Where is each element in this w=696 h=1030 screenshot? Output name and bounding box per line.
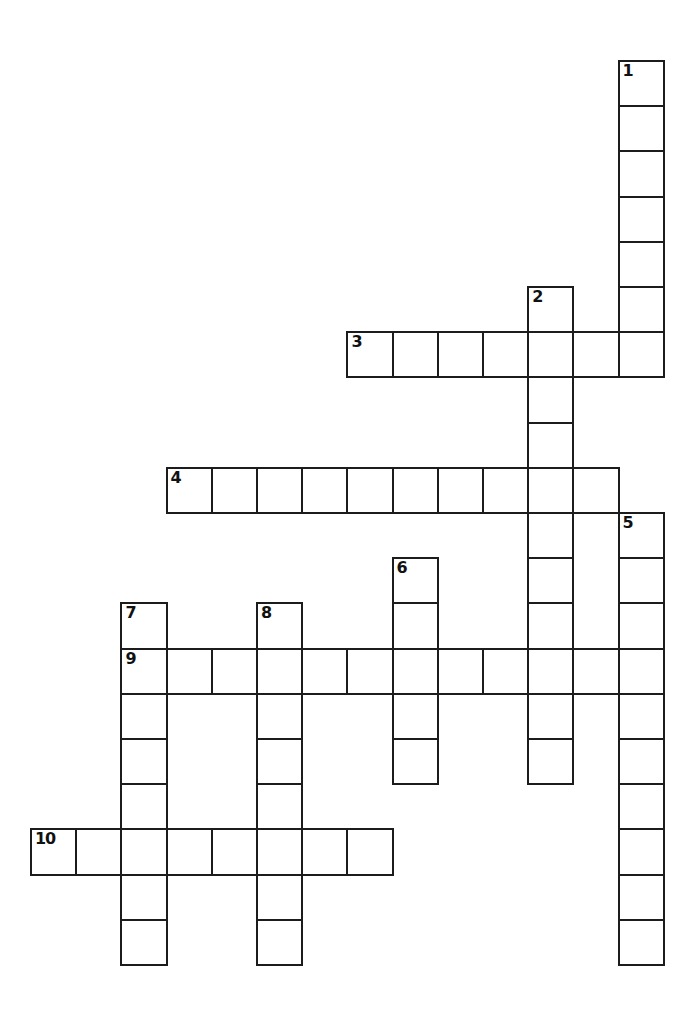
crossword-cell[interactable] xyxy=(572,331,619,378)
crossword-cell[interactable] xyxy=(256,874,303,921)
cell-number: 5 xyxy=(623,514,634,531)
crossword-cell[interactable] xyxy=(482,648,529,695)
crossword-cell[interactable] xyxy=(211,648,258,695)
crossword-cell[interactable] xyxy=(482,467,529,514)
crossword-cell[interactable] xyxy=(618,874,665,921)
crossword-cell[interactable] xyxy=(527,738,574,785)
crossword-cell[interactable] xyxy=(618,286,665,333)
crossword-cell[interactable] xyxy=(120,783,167,830)
crossword-cell[interactable] xyxy=(256,738,303,785)
crossword-cell[interactable] xyxy=(346,648,393,695)
crossword-cell[interactable]: 6 xyxy=(392,557,439,604)
crossword-cell[interactable] xyxy=(120,738,167,785)
cell-number: 2 xyxy=(532,288,543,305)
crossword-cell[interactable] xyxy=(482,331,529,378)
crossword-cell[interactable] xyxy=(618,150,665,197)
cell-number: 4 xyxy=(171,469,182,486)
crossword-cell[interactable] xyxy=(572,467,619,514)
crossword-cell[interactable] xyxy=(392,602,439,649)
crossword-cell[interactable]: 8 xyxy=(256,602,303,649)
crossword-cell[interactable] xyxy=(120,919,167,966)
crossword-cell[interactable] xyxy=(437,467,484,514)
cell-number: 1 xyxy=(623,62,634,79)
crossword-cell[interactable] xyxy=(527,648,574,695)
cell-number: 3 xyxy=(351,333,362,350)
crossword-cell[interactable]: 10 xyxy=(30,828,77,875)
crossword-cell[interactable] xyxy=(120,874,167,921)
crossword-cell[interactable] xyxy=(618,693,665,740)
crossword-cell[interactable]: 4 xyxy=(166,467,213,514)
crossword-cell[interactable] xyxy=(618,738,665,785)
crossword-cell[interactable]: 5 xyxy=(618,512,665,559)
crossword-cell[interactable] xyxy=(211,467,258,514)
crossword-cell[interactable] xyxy=(618,241,665,288)
crossword-cell[interactable] xyxy=(301,828,348,875)
crossword-cell[interactable]: 1 xyxy=(618,60,665,107)
crossword-cell[interactable] xyxy=(301,467,348,514)
crossword-cell[interactable] xyxy=(256,648,303,695)
crossword-cell[interactable] xyxy=(120,693,167,740)
crossword-cell[interactable] xyxy=(211,828,258,875)
cell-number: 6 xyxy=(397,559,408,576)
crossword-cell[interactable] xyxy=(392,648,439,695)
cell-number: 10 xyxy=(35,830,55,847)
crossword-cell[interactable] xyxy=(301,648,348,695)
crossword-cell[interactable] xyxy=(618,783,665,830)
crossword-cell[interactable] xyxy=(527,557,574,604)
crossword-cell[interactable] xyxy=(618,648,665,695)
crossword-cell[interactable] xyxy=(527,331,574,378)
crossword-cell[interactable] xyxy=(527,467,574,514)
crossword-cell[interactable]: 3 xyxy=(346,331,393,378)
crossword-cell[interactable] xyxy=(618,828,665,875)
crossword-cell[interactable] xyxy=(527,376,574,423)
crossword-cell[interactable] xyxy=(75,828,122,875)
cell-number: 9 xyxy=(125,650,136,667)
crossword-grid: 12345678910 xyxy=(0,0,696,1030)
crossword-cell[interactable] xyxy=(256,693,303,740)
crossword-cell[interactable] xyxy=(346,467,393,514)
crossword-cell[interactable] xyxy=(527,693,574,740)
crossword-cell[interactable] xyxy=(256,467,303,514)
crossword-cell[interactable] xyxy=(437,331,484,378)
crossword-cell[interactable]: 2 xyxy=(527,286,574,333)
crossword-cell[interactable] xyxy=(392,331,439,378)
crossword-cell[interactable]: 9 xyxy=(120,648,167,695)
crossword-cell[interactable] xyxy=(346,828,393,875)
crossword-cell[interactable] xyxy=(392,467,439,514)
crossword-cell[interactable] xyxy=(618,557,665,604)
crossword-cell[interactable] xyxy=(527,422,574,469)
crossword-cell[interactable] xyxy=(618,919,665,966)
crossword-cell[interactable] xyxy=(166,828,213,875)
crossword-cell[interactable] xyxy=(618,331,665,378)
crossword-cell[interactable] xyxy=(392,738,439,785)
crossword-cell[interactable] xyxy=(572,648,619,695)
crossword-cell[interactable]: 7 xyxy=(120,602,167,649)
crossword-cell[interactable] xyxy=(120,828,167,875)
crossword-cell[interactable] xyxy=(256,783,303,830)
crossword-cell[interactable] xyxy=(527,512,574,559)
crossword-cell[interactable] xyxy=(618,105,665,152)
crossword-cell[interactable] xyxy=(166,648,213,695)
crossword-cell[interactable] xyxy=(437,648,484,695)
cell-number: 7 xyxy=(125,604,136,621)
crossword-cell[interactable] xyxy=(618,602,665,649)
cell-number: 8 xyxy=(261,604,272,621)
crossword-cell[interactable] xyxy=(618,196,665,243)
crossword-cell[interactable] xyxy=(527,602,574,649)
crossword-cell[interactable] xyxy=(256,919,303,966)
crossword-cell[interactable] xyxy=(256,828,303,875)
crossword-cell[interactable] xyxy=(392,693,439,740)
